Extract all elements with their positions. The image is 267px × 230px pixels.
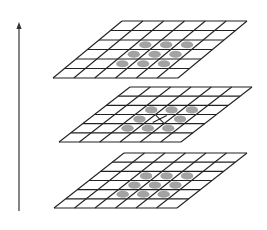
neighbor-dot — [145, 106, 157, 113]
diagram-svg — [0, 0, 267, 230]
up-arrow-icon — [16, 22, 21, 211]
middle-layer — [59, 87, 252, 142]
grid-layers — [53, 21, 252, 208]
neighbor-dot — [116, 60, 128, 67]
neighbor-dot — [165, 106, 177, 113]
bottom-layer — [54, 153, 247, 208]
neighbor-dot — [174, 115, 186, 122]
neighbor-dot — [140, 172, 152, 179]
neighbor-dot — [117, 191, 129, 198]
neighbor-dot — [121, 125, 133, 132]
neighbor-dot — [158, 191, 170, 198]
neighbor-dot — [149, 181, 161, 188]
neighbor-dot — [160, 172, 172, 179]
neighbor-dot — [186, 106, 198, 113]
center-x-mark-icon — [153, 115, 167, 123]
neighbor-dot — [139, 41, 151, 48]
neighbor-dot — [137, 60, 149, 67]
scale-space-diagram — [0, 0, 267, 230]
neighbor-dot — [148, 51, 160, 58]
neighbor-dot — [133, 115, 145, 122]
neighbor-dot — [128, 51, 140, 58]
neighbor-dot — [128, 181, 140, 188]
neighbor-dot — [169, 51, 181, 58]
neighbor-dot — [181, 172, 193, 179]
neighbor-dot — [169, 181, 181, 188]
neighbor-dot — [162, 125, 174, 132]
neighbor-dot — [137, 191, 149, 198]
neighbor-dot — [158, 60, 170, 67]
neighbor-dot — [181, 41, 193, 48]
neighbor-dot — [160, 41, 172, 48]
top-layer — [53, 21, 247, 78]
arrow-head — [16, 22, 21, 29]
neighbor-dot — [142, 125, 154, 132]
